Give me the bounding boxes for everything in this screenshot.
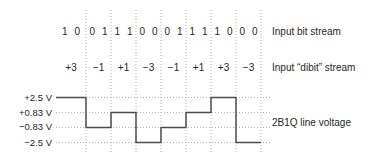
dibit-value: +1 <box>186 61 211 74</box>
voltage-axis-label: −0.83 V <box>0 121 52 133</box>
line-voltage-waveform <box>56 98 261 143</box>
line-voltage-label: 2B1Q line voltage <box>272 116 351 129</box>
voltage-axis-label: +2.5 V <box>0 92 52 104</box>
voltage-axis-label: +0.83 V <box>0 107 52 119</box>
dibit-value: −3 <box>236 61 261 74</box>
bit-pair: 1 0 <box>56 25 86 38</box>
dibit-value: −1 <box>161 61 186 74</box>
bit-pair: 1 1 <box>186 25 211 38</box>
bit-pair: 0 0 <box>136 25 161 38</box>
dibit-value: −3 <box>136 61 161 74</box>
voltage-axis-label: −2.5 V <box>0 137 52 149</box>
bit-pair: 1 0 <box>211 25 236 38</box>
dibit-value: +3 <box>211 61 236 74</box>
bit-pair: 0 1 <box>86 25 111 38</box>
2b1q-encoding-diagram: 1 00 11 10 00 11 11 00 0 +3−1+1−3−1+1+3−… <box>0 0 376 161</box>
dibit-value: +3 <box>56 61 86 74</box>
dibit-value: −1 <box>86 61 111 74</box>
dibit-stream-label: Input “dibit” stream <box>272 61 355 74</box>
bit-pair: 1 1 <box>111 25 136 38</box>
bit-pair: 0 0 <box>236 25 261 38</box>
bit-stream-label: Input bit stream <box>272 25 341 38</box>
dibit-value: +1 <box>111 61 136 74</box>
bit-pair: 0 1 <box>161 25 186 38</box>
